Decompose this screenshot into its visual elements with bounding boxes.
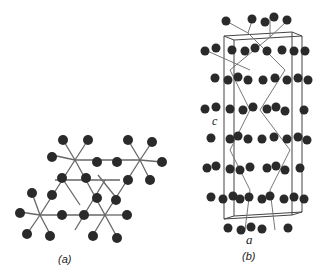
structure-b-diagram bbox=[190, 0, 326, 275]
panel-b-label: (b) bbox=[242, 250, 255, 262]
panel-a: (a) bbox=[0, 0, 180, 275]
axis-c-label: c bbox=[212, 114, 217, 129]
panel-a-label: (a) bbox=[58, 253, 71, 265]
panel-b: c a (b) bbox=[190, 0, 326, 275]
axis-a-label: a bbox=[246, 232, 253, 248]
structure-a-diagram bbox=[0, 0, 180, 275]
